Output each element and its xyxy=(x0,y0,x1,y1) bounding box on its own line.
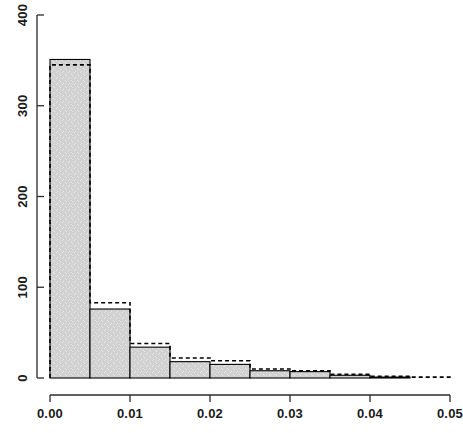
y-tick-label: 200 xyxy=(15,185,30,207)
histogram-bar xyxy=(330,375,370,378)
histogram-bar xyxy=(90,309,130,378)
x-tick-label: 0.00 xyxy=(37,406,63,421)
y-tick-label: 300 xyxy=(15,95,30,117)
histogram-bar xyxy=(210,364,250,378)
histogram-bar xyxy=(170,362,210,378)
y-tick-label: 0 xyxy=(15,374,30,381)
x-tick-label: 0.04 xyxy=(357,406,384,421)
x-tick-label: 0.02 xyxy=(197,406,223,421)
histogram-bar xyxy=(130,347,170,378)
histogram-bar xyxy=(290,372,330,378)
y-tick-label: 400 xyxy=(15,4,30,26)
histogram-plot: 0100200300400 0.000.010.020.030.040.05 xyxy=(0,0,463,433)
x-tick-label: 0.05 xyxy=(437,406,463,421)
x-tick-label: 0.03 xyxy=(277,406,303,421)
y-tick-label: 100 xyxy=(15,276,30,298)
histogram-bar xyxy=(370,377,410,378)
chart-canvas: 0100200300400 0.000.010.020.030.040.05 xyxy=(0,0,463,433)
histogram-bar xyxy=(50,59,90,378)
histogram-bar xyxy=(250,371,290,378)
x-tick-label: 0.01 xyxy=(117,406,143,421)
